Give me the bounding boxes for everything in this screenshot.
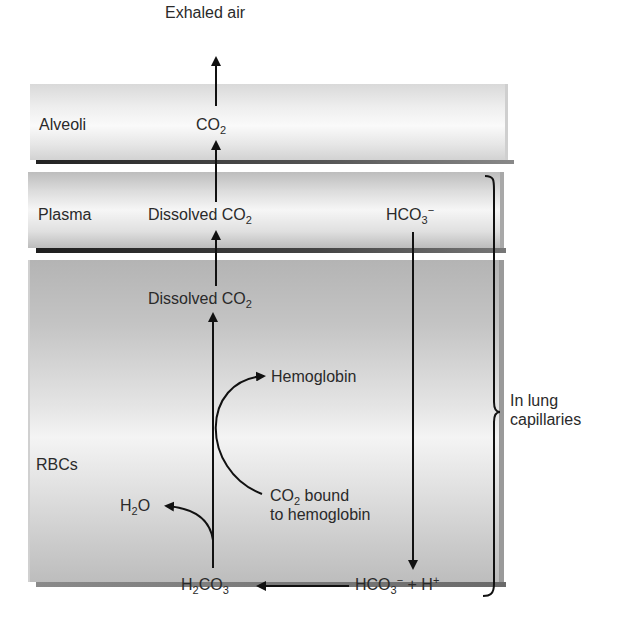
label-alveoli: Alveoli [39, 116, 86, 134]
species-plasma-bicarbonate: HCO3− [386, 206, 434, 224]
species-carbonic-acid: H2CO3 [181, 576, 229, 594]
species-co2-bound-line1: CO2 bound [270, 487, 349, 505]
label-rbcs: RBCs [36, 456, 78, 474]
curve-bound-to-hemoglobin [216, 376, 264, 494]
species-alveoli-co2: CO2 [196, 116, 226, 134]
species-rbc-dissolved-co2: Dissolved CO2 [148, 290, 252, 308]
bracket-label-line1: In lung [510, 392, 558, 410]
species-plasma-dissolved-co2: Dissolved CO2 [148, 206, 252, 224]
species-hemoglobin: Hemoglobin [271, 368, 356, 386]
species-water: H2O [120, 497, 150, 515]
species-bicarbonate-plus-h: HCO3− + H+ [355, 576, 439, 594]
species-co2-bound-line2: to hemoglobin [270, 506, 371, 524]
curve-h2co3-to-water [166, 506, 213, 540]
bracket-label-line2: capillaries [510, 411, 581, 429]
bracket-lung-capillaries [483, 176, 500, 596]
label-exhaled-air: Exhaled air [165, 4, 245, 22]
label-plasma: Plasma [38, 206, 91, 224]
arrows-layer [0, 0, 636, 640]
